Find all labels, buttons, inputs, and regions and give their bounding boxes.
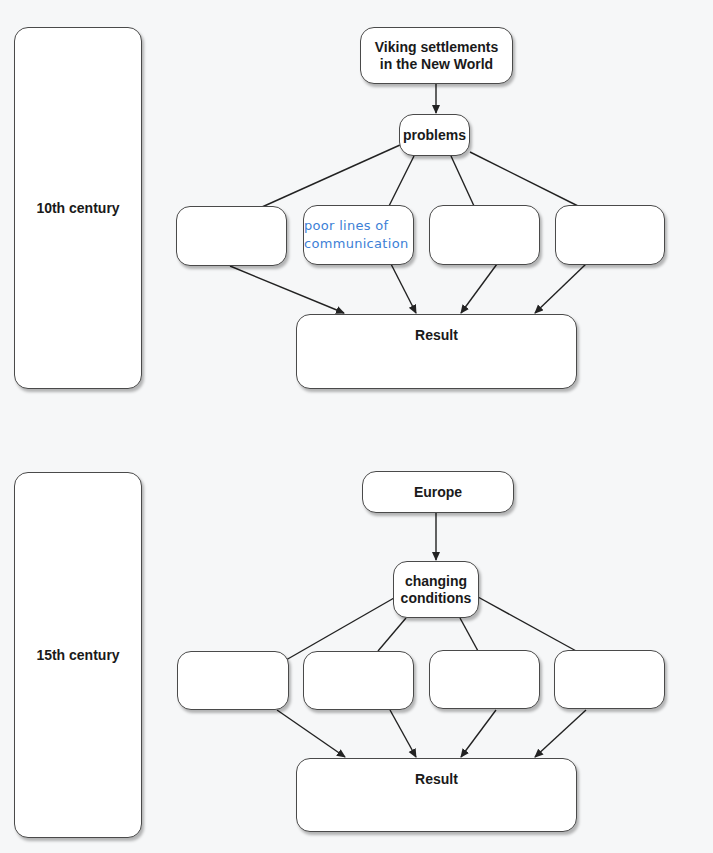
line-category-to-branch-1d [470,152,578,206]
category-node-problems: problems [399,114,470,156]
branch-box-1c[interactable] [429,205,540,265]
era-label: 10th century [36,200,119,217]
result-label: Result [415,771,458,788]
arrow-branch-2d-to-result [535,710,586,757]
era-label: 15th century [36,647,119,664]
line-category-to-branch-2b [378,618,406,651]
source-node-label: Europe [414,484,462,501]
category-node-label: changing conditions [394,573,478,607]
line-category-to-branch-2c [460,618,478,651]
arrow-branch-2c-to-result [461,710,496,757]
arrow-branch-1d-to-result [535,264,586,313]
branch-box-2c[interactable] [429,650,540,709]
line-category-to-branch-1c [451,156,474,206]
arrow-branch-1c-to-result [461,264,497,313]
result-box-2[interactable]: Result [296,758,577,832]
branch-box-2b[interactable] [303,651,414,710]
category-node-label: problems [403,127,466,144]
arrow-branch-1a-to-result [230,266,344,313]
source-node-viking-settlements: Viking settlements in the New World [360,27,513,84]
arrow-branch-2b-to-result [390,710,416,757]
handwritten-answer: poor lines of communication [304,217,413,253]
line-category-to-branch-1a [262,145,400,207]
branch-box-2d[interactable] [554,650,665,709]
result-box-1[interactable]: Result [296,314,577,389]
arrow-branch-1b-to-result [391,264,416,313]
branch-box-2a[interactable] [177,651,289,710]
era-box-15th-century: 15th century [14,472,142,838]
category-node-changing-conditions: changing conditions [393,561,479,618]
line-category-to-branch-2d [478,597,578,652]
branch-box-1b-filled[interactable]: poor lines of communication [303,205,414,265]
result-label: Result [415,327,458,344]
branch-box-1a[interactable] [176,206,287,266]
source-node-label: Viking settlements in the New World [367,39,506,73]
line-category-to-branch-1b [389,156,414,206]
source-node-europe: Europe [362,471,514,513]
arrow-branch-2a-to-result [277,710,345,757]
branch-box-1d[interactable] [555,205,665,265]
era-box-10th-century: 10th century [14,27,142,389]
